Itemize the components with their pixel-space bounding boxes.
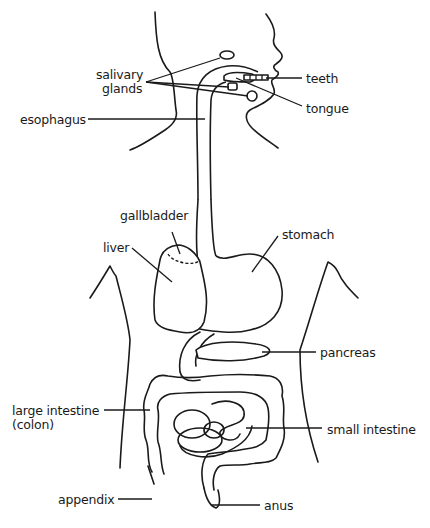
salivary-gland-lower — [247, 91, 257, 101]
label-salivary-glands-1: salivary — [96, 67, 143, 82]
salivary-leader-2 — [146, 82, 229, 87]
left-torso-outline — [90, 266, 130, 468]
label-anus: anus — [264, 498, 293, 513]
diagram-drawing — [0, 0, 430, 528]
salivary-leader-1 — [146, 58, 220, 82]
label-stomach: stomach — [282, 227, 334, 242]
salivary-gland-middle — [228, 83, 237, 90]
label-gallbladder: gallbladder — [120, 208, 188, 223]
small-intestine-shape — [174, 401, 252, 457]
digestive-system-diagram: salivary glands teeth tongue esophagus g… — [0, 0, 430, 528]
label-large-intestine-1: large intestine — [12, 403, 99, 418]
tongue-leader — [236, 78, 302, 106]
label-pancreas: pancreas — [320, 345, 376, 360]
label-small-intestine: small intestine — [327, 422, 416, 437]
label-esophagus: esophagus — [20, 112, 86, 127]
label-teeth: teeth — [306, 71, 338, 86]
liver-shape — [154, 245, 207, 333]
teeth-shape — [244, 75, 268, 80]
large-intestine-shape — [144, 375, 285, 491]
esophagus-tube — [197, 200, 217, 262]
label-tongue: tongue — [306, 101, 349, 116]
salivary-gland-upper — [220, 51, 234, 59]
label-liver: liver — [103, 240, 129, 255]
pancreas-shape — [196, 342, 270, 361]
label-large-intestine-2: (colon) — [12, 417, 54, 432]
label-salivary-glands-2: glands — [102, 81, 142, 96]
label-appendix: appendix — [58, 492, 114, 507]
